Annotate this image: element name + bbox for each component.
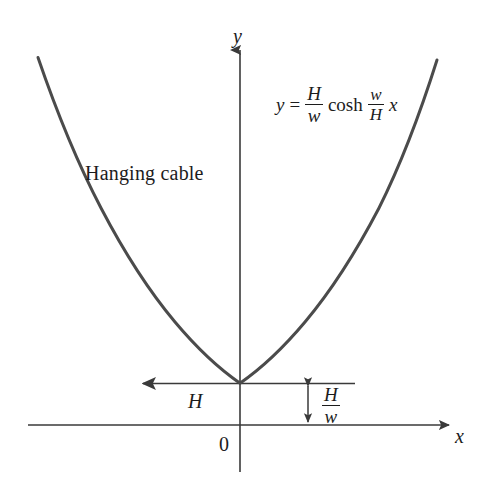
- equation-equals: =: [289, 95, 300, 114]
- horizontal-force-label: H: [188, 391, 202, 411]
- sag-fraction: H w: [322, 385, 340, 426]
- equation-argument-fraction: w H: [368, 86, 384, 123]
- hanging-cable-label: Hanging cable: [85, 163, 204, 183]
- x-axis-label: x: [455, 426, 464, 446]
- equation-coefficient-denominator: w: [306, 105, 323, 125]
- catenary-figure: y x 0 Hanging cable H H w y = H w cosh w…: [0, 0, 483, 484]
- equation-function: cosh: [328, 95, 363, 114]
- y-axis-label: y: [233, 26, 242, 46]
- origin-label: 0: [219, 434, 229, 454]
- figure-graphics: [0, 0, 483, 484]
- sag-label: H w: [322, 385, 340, 426]
- sag-numerator: H: [322, 385, 340, 405]
- sag-denominator: w: [323, 406, 340, 426]
- equation-lhs: y: [276, 95, 284, 114]
- equation-argument-numerator: w: [368, 86, 383, 104]
- equation-argument-denominator: H: [368, 105, 384, 123]
- equation-coefficient-fraction: H w: [305, 84, 323, 125]
- catenary-equation: y = H w cosh w H x: [276, 84, 397, 125]
- equation-variable: x: [389, 95, 397, 114]
- equation-coefficient-numerator: H: [305, 84, 323, 104]
